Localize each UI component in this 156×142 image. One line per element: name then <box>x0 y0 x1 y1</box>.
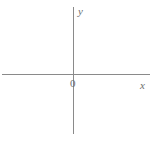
y-axis-label: y <box>78 6 83 17</box>
x-axis-label: x <box>140 80 145 91</box>
origin-label: 0 <box>70 78 76 89</box>
figure-background <box>0 0 156 142</box>
coordinate-axes-figure: y x 0 <box>0 0 156 142</box>
axes-drawing <box>0 0 156 142</box>
